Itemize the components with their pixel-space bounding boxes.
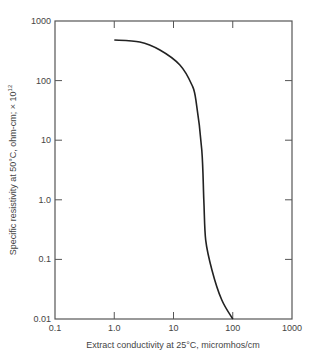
y-tick-label: 0.1 <box>38 254 51 264</box>
y-tick-label: 10 <box>41 135 51 145</box>
x-tick-label: 100 <box>225 323 240 333</box>
x-axis-ticks: 0.11.0101001000 <box>49 21 302 333</box>
x-tick-label: 1.0 <box>108 323 121 333</box>
x-tick-label: 0.1 <box>49 323 62 333</box>
x-tick-label: 1000 <box>282 323 302 333</box>
x-tick-label: 10 <box>168 323 178 333</box>
y-axis-ticks: 0.010.11.0101001000 <box>31 16 292 324</box>
chart: 0.11.0101001000 0.010.11.0101001000 Extr… <box>0 0 313 359</box>
y-tick-label: 0.01 <box>33 314 51 324</box>
data-curve <box>114 40 233 319</box>
y-tick-label: 1.0 <box>38 195 51 205</box>
plot-frame <box>55 21 292 319</box>
y-tick-label: 100 <box>36 76 51 86</box>
y-tick-label: 1000 <box>31 16 51 26</box>
x-axis-label: Extract conductivity at 25°C, micromhos/… <box>86 340 260 350</box>
y-axis-label: Specific resistivity at 50°C, ohm-cm; × … <box>7 84 18 255</box>
